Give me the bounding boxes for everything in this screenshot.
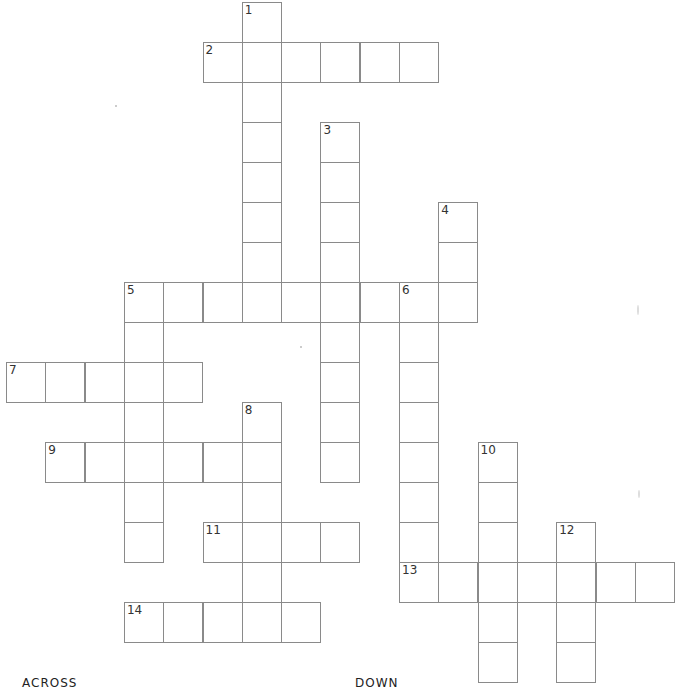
crossword-cell[interactable] [203,602,243,643]
clue-number: 3 [323,124,331,136]
clue-number: 12 [559,524,574,536]
clue-number: 8 [245,404,253,416]
crossword-cell[interactable]: 3 [320,122,360,163]
crossword-cell[interactable] [85,442,125,483]
crossword-cell[interactable] [242,162,282,203]
crossword-cell[interactable] [124,322,164,363]
paper-speck [638,490,640,498]
crossword-cell[interactable] [281,282,321,323]
crossword-cell[interactable] [281,522,321,563]
crossword-cell[interactable] [281,42,321,83]
crossword-cell[interactable] [124,362,164,403]
crossword-cell[interactable] [478,482,518,523]
crossword-cell[interactable] [399,522,439,563]
crossword-cell[interactable] [399,42,439,83]
crossword-cell[interactable] [163,282,203,323]
crossword-cell[interactable] [203,282,243,323]
clue-number: 9 [48,444,56,456]
paper-speck [637,305,639,315]
clue-number: 7 [9,364,17,376]
clue-number: 11 [206,524,221,536]
crossword-cell[interactable]: 5 [124,282,164,323]
crossword-cell[interactable] [478,602,518,643]
clue-number: 5 [127,284,135,296]
crossword-cell[interactable] [320,282,360,323]
crossword-cell[interactable] [320,162,360,203]
crossword-cell[interactable] [399,442,439,483]
crossword-cell[interactable]: 2 [203,42,243,83]
clue-number: 4 [441,204,449,216]
clue-number: 13 [402,564,417,576]
paper-speck [115,105,117,107]
crossword-cell[interactable]: 1 [242,2,282,43]
crossword-cell[interactable] [438,282,478,323]
down-heading: DOWN [355,676,399,690]
crossword-cell[interactable]: 8 [242,402,282,443]
crossword-cell[interactable] [399,322,439,363]
crossword-cell[interactable] [320,202,360,243]
clue-number: 10 [481,444,496,456]
crossword-cell[interactable] [242,282,282,323]
crossword-cell[interactable] [281,602,321,643]
paper-speck [300,346,302,348]
crossword-cell[interactable] [320,362,360,403]
crossword-cell[interactable]: 4 [438,202,478,243]
crossword-cell[interactable] [320,42,360,83]
crossword-cell[interactable] [320,522,360,563]
crossword-cell[interactable] [124,522,164,563]
crossword-cell[interactable] [242,122,282,163]
crossword-cell[interactable] [242,42,282,83]
crossword-cell[interactable] [163,362,203,403]
crossword-cell[interactable] [556,602,596,643]
crossword-cell[interactable] [242,482,282,523]
crossword-cell[interactable] [556,642,596,683]
crossword-cell[interactable] [242,562,282,603]
clue-number: 6 [402,284,410,296]
clue-number: 1 [245,4,253,16]
crossword-cell[interactable] [438,562,478,603]
crossword-cell[interactable]: 10 [478,442,518,483]
crossword-cell[interactable] [124,402,164,443]
crossword-cell[interactable] [242,242,282,283]
clue-number: 2 [206,44,214,56]
crossword-cell[interactable] [124,482,164,523]
crossword-cell[interactable] [320,402,360,443]
crossword-cell[interactable] [124,442,164,483]
crossword-cell[interactable] [478,522,518,563]
crossword-cell[interactable] [399,402,439,443]
crossword-cell[interactable] [478,562,518,603]
crossword-cell[interactable] [320,242,360,283]
crossword-cell[interactable]: 11 [203,522,243,563]
crossword-cell[interactable] [242,522,282,563]
crossword-cell[interactable] [596,562,636,603]
crossword-cell[interactable] [242,82,282,123]
crossword-cell[interactable] [163,442,203,483]
crossword-cell[interactable] [85,362,125,403]
crossword-cell[interactable] [163,602,203,643]
crossword-cell[interactable]: 7 [6,362,46,403]
crossword-cell[interactable] [320,322,360,363]
crossword-cell[interactable] [360,42,400,83]
crossword-cell[interactable]: 6 [399,282,439,323]
crossword-cell[interactable] [45,362,85,403]
crossword-cell[interactable]: 14 [124,602,164,643]
crossword-cell[interactable] [438,242,478,283]
crossword-cell[interactable] [320,442,360,483]
crossword-cell[interactable] [635,562,675,603]
crossword-cell[interactable]: 13 [399,562,439,603]
crossword-cell[interactable] [242,442,282,483]
crossword-cell[interactable] [399,362,439,403]
crossword-cell[interactable] [399,482,439,523]
crossword-cell[interactable] [242,602,282,643]
crossword-cell[interactable] [203,442,243,483]
crossword-cell[interactable] [517,562,557,603]
crossword-cell[interactable] [478,642,518,683]
crossword-cell[interactable]: 12 [556,522,596,563]
crossword-cell[interactable] [360,282,400,323]
crossword-cell[interactable]: 9 [45,442,85,483]
crossword-cell[interactable] [242,202,282,243]
across-heading: ACROSS [22,676,77,690]
crossword-cell[interactable] [556,562,596,603]
clue-number: 14 [127,604,142,616]
